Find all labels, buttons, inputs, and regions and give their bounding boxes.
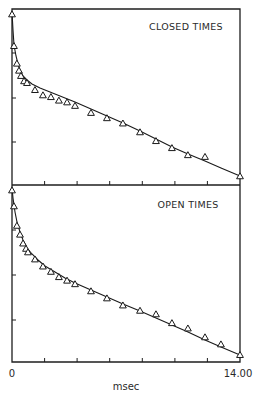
triangle-data-marker xyxy=(169,320,176,326)
panel-divider-axis xyxy=(12,181,240,185)
triangle-data-marker xyxy=(32,87,39,93)
triangle-data-marker xyxy=(202,153,209,159)
closed-times-label: CLOSED TIMES xyxy=(149,21,223,32)
triangle-data-marker xyxy=(218,341,225,347)
closed-times-panel: CLOSED TIMES xyxy=(9,9,244,185)
triangle-data-marker xyxy=(20,240,27,246)
x-axis-max-label: 14.00 xyxy=(224,368,253,379)
triangle-data-marker xyxy=(40,92,47,98)
triangle-data-marker xyxy=(56,274,63,280)
triangle-data-marker xyxy=(56,97,63,103)
open-fit-curve xyxy=(12,188,240,355)
triangle-data-marker xyxy=(120,120,127,126)
triangle-data-marker xyxy=(13,60,20,66)
triangle-data-marker xyxy=(48,94,55,100)
open-times-label: OPEN TIMES xyxy=(157,199,218,210)
dwell-time-histogram-figure: CLOSED TIMES OPEN TIMES xyxy=(0,0,261,394)
closed-data-points xyxy=(9,11,244,179)
triangle-data-marker xyxy=(104,115,111,121)
open-times-panel: OPEN TIMES xyxy=(9,185,244,362)
closed-fit-curve xyxy=(12,12,240,176)
triangle-data-marker xyxy=(17,231,24,237)
x-axis-unit-label: msec xyxy=(113,381,140,392)
triangle-data-marker xyxy=(202,334,209,340)
triangle-data-marker xyxy=(184,325,191,331)
triangle-data-marker xyxy=(9,187,16,193)
triangle-data-marker xyxy=(9,11,16,17)
triangle-data-marker xyxy=(237,173,244,179)
triangle-data-marker xyxy=(13,222,20,228)
triangle-data-marker xyxy=(153,311,160,317)
x-axis-min-label: 0 xyxy=(9,368,15,379)
open-data-points xyxy=(9,187,244,358)
